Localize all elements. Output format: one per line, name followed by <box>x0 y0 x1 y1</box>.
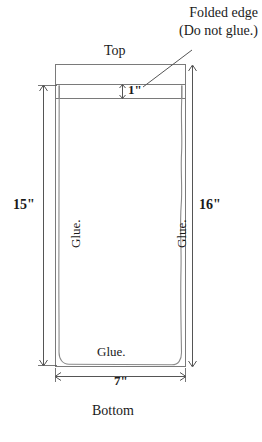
folded-edge-callout-line1: Folded edge <box>179 4 258 22</box>
dimension-right-label: 16" <box>199 198 221 212</box>
dimension-left-15in <box>38 85 57 366</box>
glue-label-bottom: Glue. <box>97 345 126 358</box>
folded-edge-leader-line <box>143 50 192 87</box>
dimension-fold-strip-1in <box>120 85 126 99</box>
outer-sheet-rectangle <box>56 65 186 367</box>
folded-edge-callout-line2: (Do not glue.) <box>179 22 258 40</box>
folded-edge-callout: Folded edge (Do not glue.) <box>179 4 258 40</box>
diagram-canvas <box>0 0 262 442</box>
bottom-label: Bottom <box>92 404 134 418</box>
dimension-fold-strip-label: 1" <box>128 83 142 96</box>
top-label: Top <box>104 44 126 58</box>
dimension-width-label: 7" <box>114 374 128 387</box>
glue-label-right: Glue. <box>175 219 188 248</box>
dimension-right-16in <box>189 65 197 367</box>
bag-pattern-diagram: Folded edge (Do not glue.) Top Bottom 15… <box>0 0 262 442</box>
dimension-left-label: 15" <box>13 198 35 212</box>
glue-label-left: Glue. <box>69 219 82 248</box>
